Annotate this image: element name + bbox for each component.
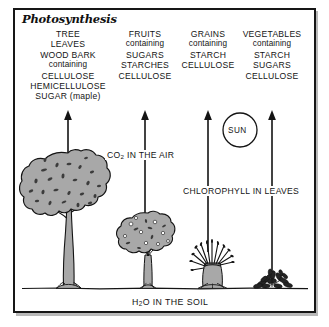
photosynthesis-figure: Photosynthesis TREE LEAVES WOOD BARK con…: [0, 0, 329, 327]
vegetables-line-2: containing: [232, 39, 312, 49]
fruits-line-5: CELLULOSE: [108, 71, 182, 81]
large-tree: [20, 150, 111, 289]
fruits-line-2: containing: [108, 39, 182, 49]
vegetables-line-4: SUGARS: [232, 60, 312, 70]
fruits-column: FRUITS containing SUGARS STARCHES CELLUL…: [108, 29, 182, 81]
figure-title: Photosynthesis: [22, 12, 117, 26]
fruits-line-1: FRUITS: [108, 29, 182, 39]
arrow-grains: [204, 110, 212, 252]
co2-label: CO2 IN THE AIR: [105, 150, 176, 160]
vegetables-column: VEGETABLES containing STARCH SUGARS CELL…: [232, 29, 312, 81]
chlorophyll-label: CHLOROPHYLL IN LEAVES: [181, 186, 301, 196]
vegetable-plant: [253, 269, 293, 289]
vegetables-line-5: CELLULOSE: [232, 71, 312, 81]
vegetables-line-3: STARCH: [232, 50, 312, 60]
vegetables-line-1: VEGETABLES: [232, 29, 312, 39]
fruits-line-3: SUGARS: [108, 50, 182, 60]
fruits-line-4: STARCHES: [108, 60, 182, 70]
grain-shock: [189, 239, 235, 288]
co2-suffix: IN THE AIR: [124, 150, 174, 160]
tree-line-7: SUGAR (maple): [0, 91, 136, 101]
water-label: H2O IN THE SOIL: [132, 297, 208, 307]
water-suffix: O IN THE SOIL: [143, 297, 209, 307]
tree-line-6: HEMICELLULOSE: [0, 81, 136, 91]
fruit-tree: [117, 211, 175, 288]
water-prefix: H: [132, 297, 139, 307]
sun-label: SUN: [228, 126, 247, 135]
co2-prefix: CO: [107, 150, 121, 160]
